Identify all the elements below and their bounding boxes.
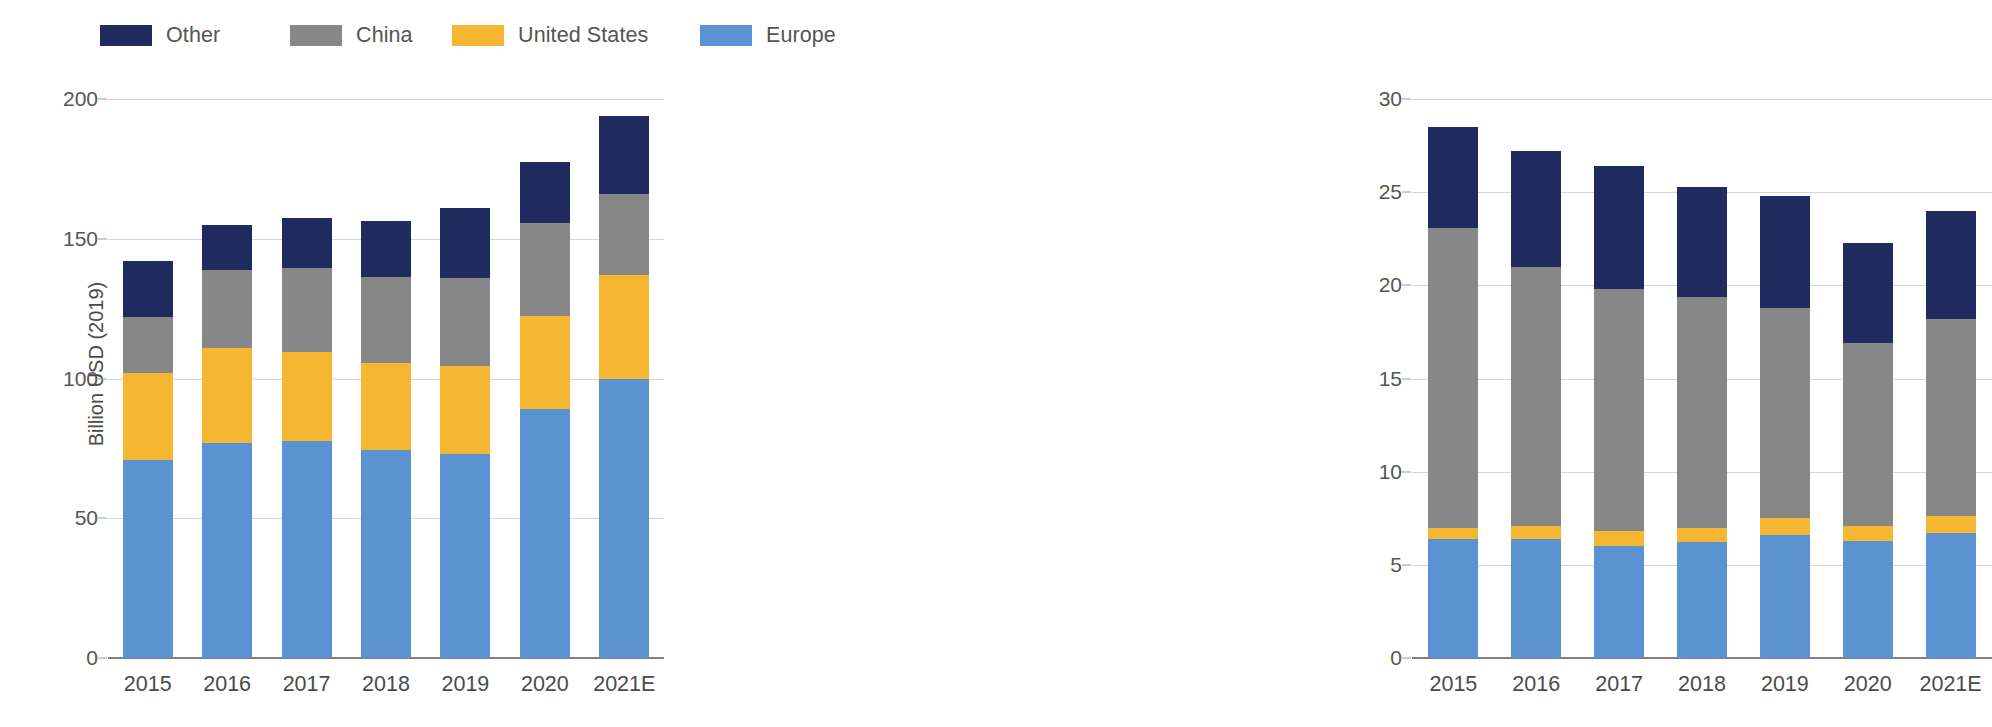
bar-segment-other[interactable] xyxy=(440,208,490,278)
y-axis-tick-label: 30 xyxy=(1322,87,1402,111)
bar-segment-other[interactable] xyxy=(202,225,252,270)
y-axis-tick-mark xyxy=(98,658,107,659)
bar-segment-china[interactable] xyxy=(123,317,173,373)
bar-segment-united-states[interactable] xyxy=(361,363,411,450)
x-axis-tick-label: 2018 xyxy=(362,672,410,697)
bar-segment-united-states[interactable] xyxy=(1511,526,1561,539)
bar-2018[interactable] xyxy=(361,221,411,658)
y-axis-tick-label: 200 xyxy=(18,87,98,111)
bar-segment-united-states[interactable] xyxy=(1843,526,1893,541)
bar-segment-europe[interactable] xyxy=(1760,535,1810,658)
bar-segment-europe[interactable] xyxy=(1677,542,1727,658)
bar-segment-europe[interactable] xyxy=(123,460,173,658)
bar-segment-europe[interactable] xyxy=(599,379,649,659)
bar-segment-europe[interactable] xyxy=(1594,546,1644,658)
bar-segment-other[interactable] xyxy=(1843,243,1893,344)
y-axis-tick-label: 0 xyxy=(18,646,98,670)
bar-segment-europe[interactable] xyxy=(202,443,252,658)
bar-2017[interactable] xyxy=(1594,166,1644,658)
chart-panel-right: 0510152025302015201620172018201920202021… xyxy=(672,0,1344,727)
bar-segment-europe[interactable] xyxy=(520,409,570,658)
bar-2020[interactable] xyxy=(520,162,570,658)
bar-segment-china[interactable] xyxy=(361,277,411,364)
bar-segment-europe[interactable] xyxy=(440,454,490,658)
bar-segment-china[interactable] xyxy=(1511,267,1561,526)
bar-2015[interactable] xyxy=(123,261,173,658)
bar-segment-united-states[interactable] xyxy=(520,316,570,410)
bar-2019[interactable] xyxy=(440,208,490,658)
bar-segment-other[interactable] xyxy=(361,221,411,277)
y-axis-tick-mark xyxy=(1402,99,1411,100)
bar-segment-other[interactable] xyxy=(123,261,173,317)
bar-2016[interactable] xyxy=(1511,151,1561,658)
y-axis-tick-label: 20 xyxy=(1322,273,1402,297)
x-axis-tick-label: 2021E xyxy=(1919,672,1981,697)
bar-segment-united-states[interactable] xyxy=(1594,531,1644,546)
bar-segment-europe[interactable] xyxy=(361,450,411,658)
bar-segment-europe[interactable] xyxy=(1926,533,1976,658)
bar-segment-united-states[interactable] xyxy=(123,373,173,460)
bar-segment-other[interactable] xyxy=(282,218,332,268)
x-axis-tick-label: 2015 xyxy=(1430,672,1478,697)
bar-segment-china[interactable] xyxy=(520,223,570,315)
x-axis-tick-label: 2020 xyxy=(1844,672,1892,697)
bar-segment-other[interactable] xyxy=(1511,151,1561,267)
y-axis-tick-label: 5 xyxy=(1322,553,1402,577)
bar-segment-china[interactable] xyxy=(440,278,490,366)
bar-segment-china[interactable] xyxy=(1843,343,1893,526)
chart-panel-left: Billion USD (2019) 050100150200201520162… xyxy=(0,0,672,727)
x-axis-tick-label: 2016 xyxy=(203,672,251,697)
bar-2020[interactable] xyxy=(1843,243,1893,658)
bar-segment-other[interactable] xyxy=(1428,127,1478,228)
bar-segment-other[interactable] xyxy=(520,162,570,223)
bar-2021E[interactable] xyxy=(599,116,649,658)
bar-segment-united-states[interactable] xyxy=(440,366,490,454)
bar-segment-europe[interactable] xyxy=(1428,539,1478,658)
bar-segment-europe[interactable] xyxy=(1511,539,1561,658)
bar-segment-other[interactable] xyxy=(1926,211,1976,319)
y-axis-tick-label: 100 xyxy=(18,367,98,391)
y-axis-tick-label: 25 xyxy=(1322,180,1402,204)
bar-segment-china[interactable] xyxy=(1594,289,1644,531)
x-axis-tick-label: 2019 xyxy=(442,672,490,697)
bar-segment-other[interactable] xyxy=(1594,166,1644,289)
bar-2019[interactable] xyxy=(1760,196,1810,658)
y-axis-tick-mark xyxy=(98,238,107,239)
y-axis-tick-mark xyxy=(1402,378,1411,379)
bar-segment-china[interactable] xyxy=(202,270,252,348)
bar-segment-united-states[interactable] xyxy=(1677,528,1727,543)
x-axis-tick-label: 2019 xyxy=(1761,672,1809,697)
bar-segment-europe[interactable] xyxy=(1843,541,1893,658)
y-axis-tick-label: 150 xyxy=(18,227,98,251)
gridline xyxy=(108,99,664,100)
plot-area-right: 0510152025302015201620172018201920202021… xyxy=(1412,99,1992,658)
bar-2016[interactable] xyxy=(202,225,252,658)
y-axis-tick-mark xyxy=(98,99,107,100)
x-axis-tick-label: 2017 xyxy=(1595,672,1643,697)
y-axis-tick-label: 50 xyxy=(18,506,98,530)
bar-segment-united-states[interactable] xyxy=(282,352,332,441)
y-axis-tick-mark xyxy=(1402,285,1411,286)
bar-segment-united-states[interactable] xyxy=(1926,516,1976,533)
bar-segment-united-states[interactable] xyxy=(599,275,649,378)
bar-2018[interactable] xyxy=(1677,187,1727,658)
bar-segment-other[interactable] xyxy=(1677,187,1727,297)
bar-segment-china[interactable] xyxy=(1926,319,1976,517)
y-axis-tick-mark xyxy=(98,518,107,519)
bar-segment-china[interactable] xyxy=(1428,228,1478,528)
bar-segment-united-states[interactable] xyxy=(202,348,252,443)
bar-2015[interactable] xyxy=(1428,127,1478,658)
bar-segment-other[interactable] xyxy=(599,116,649,194)
bar-segment-other[interactable] xyxy=(1760,196,1810,308)
bar-segment-united-states[interactable] xyxy=(1760,518,1810,535)
y-axis-title-left: Billion USD (2019) xyxy=(85,281,108,446)
bar-segment-china[interactable] xyxy=(282,268,332,352)
y-axis-tick-mark xyxy=(1402,471,1411,472)
bar-segment-united-states[interactable] xyxy=(1428,528,1478,539)
bar-segment-china[interactable] xyxy=(1677,297,1727,528)
bar-segment-china[interactable] xyxy=(1760,308,1810,519)
bar-2017[interactable] xyxy=(282,218,332,658)
bar-segment-europe[interactable] xyxy=(282,441,332,658)
bar-2021E[interactable] xyxy=(1926,211,1976,658)
bar-segment-china[interactable] xyxy=(599,194,649,275)
